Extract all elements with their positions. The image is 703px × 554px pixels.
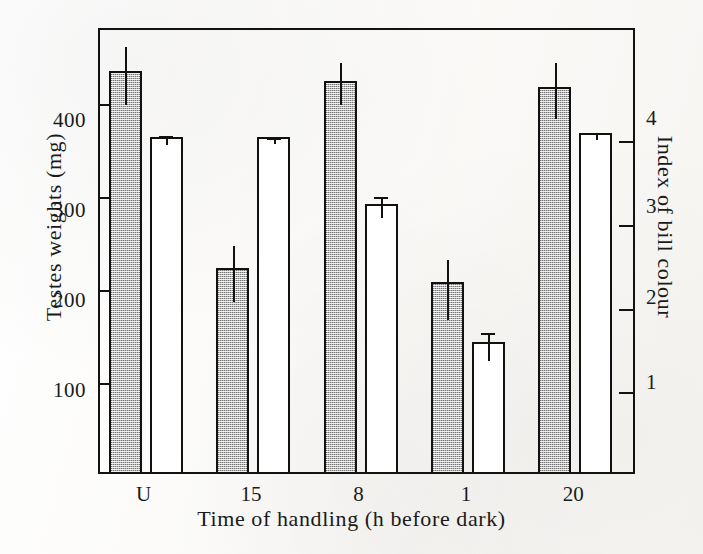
error-bar-cap-bill-colour-index xyxy=(589,133,603,135)
y-axis-left-title: Testes weights (mg) xyxy=(41,107,67,347)
bar-testes-weight xyxy=(538,87,571,472)
error-bar-cap-bill-colour-index xyxy=(267,138,281,140)
x-axis-tick-label: 1 xyxy=(426,482,506,507)
error-bar-testes-weight xyxy=(447,260,449,319)
error-bar-testes-weight xyxy=(233,246,235,303)
bar-bill-colour-index xyxy=(365,204,398,472)
y-axis-right-tick xyxy=(619,309,635,311)
bar-bill-colour-index xyxy=(472,342,505,472)
bar-bill-colour-index xyxy=(257,137,290,472)
x-axis-tick-label: U xyxy=(104,482,184,507)
y-axis-right-title: Index of bill colour xyxy=(652,107,678,347)
y-axis-right-tick-label: 1 xyxy=(646,370,676,395)
error-bar-bill-colour-index xyxy=(381,197,383,219)
error-bar-testes-weight xyxy=(555,63,557,119)
error-bar-cap-bill-colour-index xyxy=(374,197,388,199)
bar-testes-weight xyxy=(324,81,357,472)
y-axis-right-tick xyxy=(619,225,635,227)
plot-area xyxy=(98,28,635,474)
y-axis-right-tick xyxy=(619,392,635,394)
error-bar-testes-weight xyxy=(340,63,342,105)
error-bar-cap-bill-colour-index xyxy=(481,333,495,335)
x-axis-tick-label: 20 xyxy=(533,482,613,507)
x-axis-tick-label: 15 xyxy=(211,482,291,507)
error-bar-cap-bill-colour-index xyxy=(159,136,173,138)
y-axis-right-tick xyxy=(619,141,635,143)
bar-bill-colour-index xyxy=(579,133,612,472)
error-bar-bill-colour-index xyxy=(488,333,490,361)
x-axis-title: Time of handling (h before dark) xyxy=(0,506,703,532)
bar-bill-colour-index xyxy=(150,137,183,472)
error-bar-testes-weight xyxy=(125,47,127,106)
y-axis-left-tick-label: 100 xyxy=(28,378,86,403)
x-axis-tick-label: 8 xyxy=(319,482,399,507)
bar-testes-weight xyxy=(109,71,142,472)
figure-container: 400 300 200 100 4 3 2 1 Testes weights (… xyxy=(0,0,703,554)
